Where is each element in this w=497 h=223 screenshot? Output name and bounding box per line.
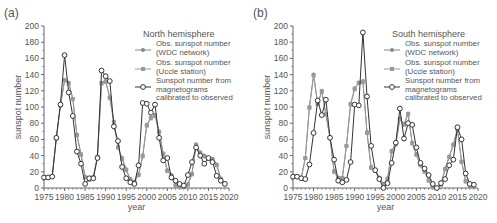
x-tick-label: 1975 bbox=[35, 192, 54, 202]
x-tick-label: 1995 bbox=[117, 192, 136, 202]
y-tick-label: 60 bbox=[30, 134, 40, 144]
x-tick-label: 1980 bbox=[304, 192, 323, 202]
x-tick-label: 2005 bbox=[158, 192, 177, 202]
x-tick-label: 1990 bbox=[345, 192, 364, 202]
x-tick-label: 2020 bbox=[220, 192, 239, 202]
legend-entry-text: calibrated to observed bbox=[405, 93, 482, 102]
y-tick-label: 120 bbox=[25, 86, 39, 96]
x-tick-label: 2020 bbox=[469, 192, 488, 202]
y-tick-label: 40 bbox=[30, 151, 40, 161]
x-tick-label: 1985 bbox=[325, 192, 344, 202]
y-tick-label: 200 bbox=[274, 21, 288, 31]
y-tick-label: 80 bbox=[279, 118, 289, 128]
x-axis-label: year bbox=[128, 202, 146, 212]
x-tick-label: 2000 bbox=[386, 192, 405, 202]
y-axis-label: sunspot number bbox=[262, 75, 272, 140]
y-tick-label: 80 bbox=[30, 118, 40, 128]
y-tick-label: 140 bbox=[25, 70, 39, 80]
x-tick-label: 2010 bbox=[178, 192, 197, 202]
legend-title: North hemisphere bbox=[143, 29, 215, 39]
x-tick-label: 2005 bbox=[407, 192, 426, 202]
x-tick-label: 1990 bbox=[96, 192, 115, 202]
x-tick-label: 2015 bbox=[199, 192, 218, 202]
y-tick-label: 100 bbox=[274, 102, 288, 112]
y-tick-label: 40 bbox=[279, 151, 289, 161]
x-tick-label: 1980 bbox=[55, 192, 74, 202]
y-tick-label: 200 bbox=[25, 21, 39, 31]
legend-entry-text: calibrated to observed bbox=[156, 93, 233, 102]
legend-entry-text: (WDC network) bbox=[405, 48, 459, 57]
x-axis-label: year bbox=[377, 202, 395, 212]
panel-label: (a) bbox=[4, 6, 19, 20]
x-tick-label: 1985 bbox=[76, 192, 95, 202]
figure: (a)0204060801001201401601802001975198019… bbox=[0, 0, 497, 223]
x-tick-label: 2010 bbox=[427, 192, 446, 202]
legend-title: South hemisphere bbox=[392, 29, 465, 39]
y-tick-label: 120 bbox=[274, 86, 288, 96]
legend-entry-text: (Uccle station) bbox=[156, 67, 206, 76]
y-tick-label: 180 bbox=[274, 37, 288, 47]
y-axis-label: sunspot number bbox=[13, 75, 23, 140]
legend-entry-text: (Uccle station) bbox=[405, 67, 455, 76]
y-tick-label: 20 bbox=[30, 167, 40, 177]
y-tick-label: 160 bbox=[274, 53, 288, 63]
x-tick-label: 2000 bbox=[137, 192, 156, 202]
legend: North hemisphereObs. sunspot number(WDC … bbox=[135, 29, 233, 102]
y-tick-label: 180 bbox=[25, 37, 39, 47]
chart-north-hemisphere: (a)0204060801001201401601802001975198019… bbox=[0, 0, 248, 223]
y-tick-label: 20 bbox=[279, 167, 289, 177]
y-tick-label: 100 bbox=[25, 102, 39, 112]
panel-label: (b) bbox=[253, 6, 268, 20]
x-tick-label: 1975 bbox=[284, 192, 303, 202]
legend: South hemisphereObs. sunspot number(WDC … bbox=[384, 29, 482, 102]
legend-entry-text: (WDC network) bbox=[156, 48, 210, 57]
y-tick-label: 60 bbox=[279, 134, 289, 144]
y-tick-label: 140 bbox=[274, 70, 288, 80]
x-tick-label: 2015 bbox=[448, 192, 467, 202]
x-tick-label: 1995 bbox=[366, 192, 385, 202]
y-tick-label: 160 bbox=[25, 53, 39, 63]
chart-south-hemisphere: (b)0204060801001201401601802001975198019… bbox=[249, 0, 497, 223]
